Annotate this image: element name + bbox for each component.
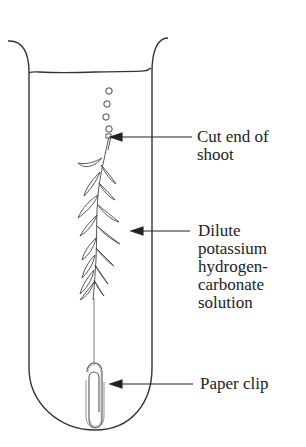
label-cut-end-of-shoot: Cut end of shoot [197, 128, 269, 164]
liquid-surface [29, 68, 151, 73]
label-line: Cut end of [197, 128, 269, 146]
label-line: Dilute [198, 222, 268, 240]
label-line: Paper clip [200, 375, 268, 393]
label-line: hydrogen- [198, 258, 268, 276]
pondweed-shoot [78, 134, 120, 300]
label-line: solution [198, 294, 268, 312]
label-line: shoot [197, 146, 269, 164]
label-line: carbonate [198, 276, 268, 294]
oxygen-bubbles [103, 88, 112, 132]
label-line: potassium [198, 240, 268, 258]
label-paper-clip: Paper clip [200, 375, 268, 393]
paper-clip [86, 363, 104, 428]
label-solution: Dilute potassium hydrogen- carbonate sol… [198, 222, 268, 312]
